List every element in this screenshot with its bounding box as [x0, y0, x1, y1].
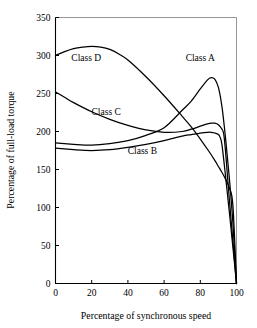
- y-tick-label: 300: [36, 51, 51, 61]
- chart-page: 050100150200250300350020406080100 Class …: [0, 0, 257, 328]
- y-tick-label: 200: [36, 127, 51, 137]
- y-tick-label: 50: [41, 241, 51, 251]
- x-tick-label: 100: [229, 288, 244, 298]
- curve-label-class-d: Class D: [71, 53, 101, 63]
- x-axis-title: Percentage of synchronous speed: [81, 310, 211, 321]
- curve-label-class-a: Class A: [186, 53, 215, 63]
- x-tick-label: 40: [123, 288, 133, 298]
- curve-class-c: [56, 92, 237, 284]
- y-tick-label: 350: [36, 13, 51, 23]
- y-tick-label: 150: [36, 165, 51, 175]
- curve-label-class-c: Class C: [92, 107, 121, 117]
- y-tick-label: 0: [46, 279, 51, 289]
- curve-labels: Class AClass BClass CClass D: [71, 53, 215, 156]
- curve-class-a: [56, 77, 237, 283]
- x-tick-label: 20: [87, 288, 97, 298]
- curve-label-class-b: Class B: [128, 146, 157, 156]
- x-tick-label: 60: [159, 288, 169, 298]
- x-tick-label: 0: [53, 288, 58, 298]
- y-tick-label: 100: [36, 203, 51, 213]
- y-tick-label: 250: [36, 89, 51, 99]
- curve-class-d: [56, 46, 237, 283]
- torque-speed-chart: 050100150200250300350020406080100 Class …: [0, 0, 257, 328]
- curve-series: [56, 46, 237, 283]
- x-tick-label: 80: [196, 288, 206, 298]
- y-axis-title: Percentage of full-load torque: [5, 91, 16, 209]
